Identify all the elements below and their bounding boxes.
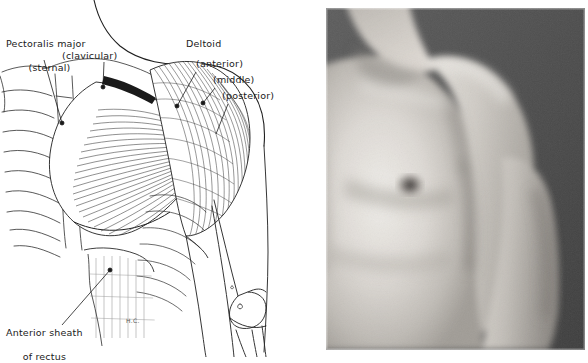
film-grain bbox=[326, 8, 585, 350]
label-anterior-text: (anterior) bbox=[196, 58, 243, 69]
label-deltoid-anterior: (anterior) bbox=[196, 58, 243, 70]
label-deltoid: Deltoid bbox=[186, 38, 221, 50]
label-pectoralis-major-text: Pectoralis major bbox=[6, 38, 86, 49]
label-clavicular-text: (clavicular) bbox=[62, 50, 117, 61]
label-sheath-line2: of rectus bbox=[6, 351, 83, 363]
label-deltoid-posterior: (posterior) bbox=[222, 90, 274, 102]
torso-photograph bbox=[326, 8, 585, 350]
label-sheath-line1: Anterior sheath bbox=[6, 327, 83, 338]
label-pectoralis-major-clavicular: (clavicular) bbox=[62, 50, 117, 62]
label-deltoid-text: Deltoid bbox=[186, 38, 221, 49]
artist-signature: H.C. bbox=[126, 317, 140, 324]
linea-alba bbox=[88, 254, 102, 346]
label-sternal-text: (sternal) bbox=[29, 62, 71, 73]
label-anterior-sheath-of-rectus: Anterior sheath of rectus bbox=[6, 327, 83, 363]
label-deltoid-middle: (middle) bbox=[213, 74, 254, 86]
label-middle-text: (middle) bbox=[213, 74, 254, 85]
photograph-svg bbox=[326, 8, 585, 350]
anterior-sheath-of-rectus bbox=[90, 256, 155, 338]
leader-anterior-sheath bbox=[62, 270, 110, 325]
label-posterior-text: (posterior) bbox=[222, 90, 274, 101]
